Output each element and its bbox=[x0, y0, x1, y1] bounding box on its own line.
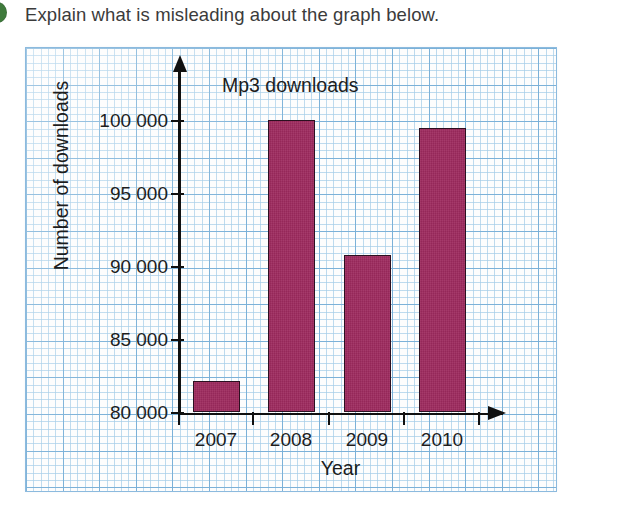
bar-chart-plot: Mp3 downloads 80 000 85 000 90 000 95 00… bbox=[26, 48, 556, 491]
y-axis-arrow-icon bbox=[173, 55, 187, 72]
x-tick-label-2009: 2009 bbox=[325, 429, 409, 451]
bar-texture bbox=[420, 129, 465, 412]
x-axis-title: Year bbox=[178, 457, 503, 480]
x-tick-1 bbox=[252, 412, 254, 425]
question-number-badge-icon bbox=[0, 2, 7, 23]
x-axis-line bbox=[178, 413, 503, 416]
y-tick-label-80000: 80 000 bbox=[26, 402, 168, 424]
x-tick-origin bbox=[178, 412, 180, 425]
bar-2009 bbox=[344, 255, 391, 412]
graph-paper-panel: Mp3 downloads 80 000 85 000 90 000 95 00… bbox=[26, 48, 556, 491]
x-tick-label-2007: 2007 bbox=[174, 429, 258, 451]
bar-2007 bbox=[193, 381, 240, 412]
y-tick-label-90000: 90 000 bbox=[26, 256, 168, 278]
chart-title: Mp3 downloads bbox=[222, 74, 359, 97]
y-axis-title: Number of downloads bbox=[50, 81, 73, 271]
x-tick-3 bbox=[403, 412, 405, 425]
x-axis-arrow-icon bbox=[488, 406, 506, 420]
x-tick-2 bbox=[328, 412, 330, 425]
bar-texture bbox=[194, 382, 239, 411]
y-tick-90000 bbox=[171, 266, 184, 268]
bar-texture bbox=[345, 256, 390, 411]
bar-2010 bbox=[419, 128, 466, 413]
y-tick-85000 bbox=[171, 339, 184, 341]
bar-texture bbox=[269, 121, 314, 411]
y-tick-label-85000: 85 000 bbox=[26, 329, 168, 351]
x-tick-label-2008: 2008 bbox=[249, 429, 333, 451]
question-prompt-text: Explain what is misleading about the gra… bbox=[25, 1, 439, 28]
y-tick-label-100000: 100 000 bbox=[26, 110, 168, 132]
bar-2008 bbox=[268, 120, 315, 412]
x-tick-4 bbox=[478, 412, 480, 425]
y-tick-100000 bbox=[171, 120, 184, 122]
y-tick-95000 bbox=[171, 193, 184, 195]
y-tick-label-95000: 95 000 bbox=[26, 183, 168, 205]
x-tick-label-2010: 2010 bbox=[400, 429, 484, 451]
